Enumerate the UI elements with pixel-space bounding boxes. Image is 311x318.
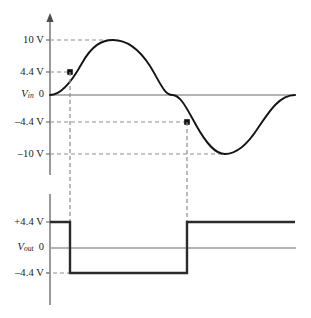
waveform-figure: 10 V 4.4 V Vin0 –4.4 V –10 V +4.4 V Vout… xyxy=(0,0,311,318)
label-upper-peak: 10 V xyxy=(0,35,44,46)
vout-zero-value: 0 xyxy=(39,241,44,252)
label-lower-low: –4.4 V xyxy=(0,268,44,279)
upper-y-axis-arrow-icon xyxy=(46,13,53,22)
label-upper-trough: –10 V xyxy=(0,149,44,160)
vout-subscript: out xyxy=(24,244,34,253)
label-vin-zero: Vin0 xyxy=(0,89,44,100)
vin-subscript: in xyxy=(28,91,34,100)
vin-sine-curve xyxy=(50,40,295,154)
label-upper-threshold-high: 4.4 V xyxy=(0,67,44,78)
label-upper-threshold-low: –4.4 V xyxy=(0,117,44,128)
figure-canvas xyxy=(0,0,311,318)
label-lower-high: +4.4 V xyxy=(0,217,44,228)
vin-zero-value: 0 xyxy=(39,88,44,99)
label-vout-zero: Vout0 xyxy=(0,242,44,253)
